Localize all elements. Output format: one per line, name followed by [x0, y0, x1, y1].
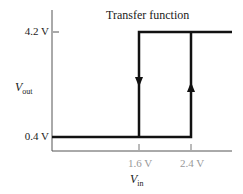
y-axis-label-sub: out	[22, 87, 32, 96]
chart-title: Transfer function	[106, 8, 189, 23]
y-axis-label: Vout	[15, 80, 33, 96]
transfer-curve-high	[139, 32, 232, 137]
transfer-curve-low	[52, 32, 191, 137]
y-tick-label-low: 0.4 V	[25, 130, 49, 142]
arrow-down-icon	[135, 77, 143, 87]
x-tick-label-low: 1.6 V	[128, 157, 152, 169]
x-axis-label-sub: in	[137, 179, 143, 188]
x-tick-label-high: 2.4 V	[180, 157, 204, 169]
arrow-up-icon	[187, 82, 195, 92]
x-axis-label: Vin	[130, 172, 144, 188]
y-tick-label-high: 4.2 V	[25, 25, 49, 37]
